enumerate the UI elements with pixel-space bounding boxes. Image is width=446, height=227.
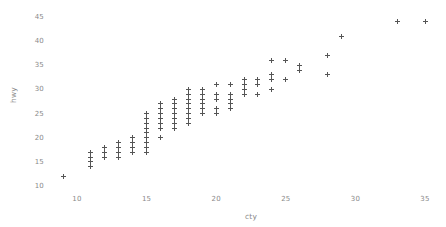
data-point [88,164,93,169]
data-point [200,106,205,111]
data-point [186,116,191,121]
y-axis-title: hwy [9,87,18,103]
data-point [130,140,135,145]
data-point [297,68,302,73]
data-point [186,111,191,116]
data-point [61,174,66,179]
data-point [214,82,219,87]
data-point [144,121,149,126]
data-point [339,34,344,39]
data-point [158,126,163,131]
data-point [269,58,274,63]
data-point [255,92,260,97]
data-point [172,97,177,102]
data-point [172,106,177,111]
data-point [395,19,400,24]
data-point [144,135,149,140]
data-point [158,135,163,140]
data-point [200,92,205,97]
data-point [228,92,233,97]
data-point [172,111,177,116]
data-point [228,82,233,87]
data-point [228,97,233,102]
data-point [186,101,191,106]
x-axis-title: cty [245,212,257,221]
data-point [144,130,149,135]
data-point [158,101,163,106]
data-point [116,155,121,160]
data-point [130,135,135,140]
data-point [116,140,121,145]
data-point [242,82,247,87]
plot-area: 1015202530354045 101520253035 cty hwy [0,0,446,227]
data-point [144,140,149,145]
data-point [186,87,191,92]
data-point [158,111,163,116]
data-point [186,106,191,111]
data-point [269,77,274,82]
data-point [325,53,330,58]
data-points-layer [0,0,446,227]
data-point [200,111,205,116]
data-point [200,97,205,102]
data-point [269,72,274,77]
data-point [214,92,219,97]
data-point [186,97,191,102]
data-point [423,19,428,24]
data-point [102,145,107,150]
data-point [214,106,219,111]
data-point [144,145,149,150]
data-point [242,77,247,82]
data-point [283,77,288,82]
data-point [325,72,330,77]
data-point [144,150,149,155]
data-point [186,121,191,126]
data-point [102,150,107,155]
data-point [186,92,191,97]
data-point [242,87,247,92]
data-point [144,126,149,131]
data-point [228,106,233,111]
data-point [269,87,274,92]
data-point [255,82,260,87]
data-point [172,101,177,106]
data-point [88,155,93,160]
data-point [214,97,219,102]
data-point [214,111,219,116]
scatter-chart-figure: 1015202530354045 101520253035 cty hwy [0,0,446,227]
data-point [102,155,107,160]
data-point [172,121,177,126]
data-point [200,87,205,92]
data-point [228,101,233,106]
data-point [88,150,93,155]
data-point [158,106,163,111]
data-point [88,159,93,164]
data-point [144,116,149,121]
data-point [158,116,163,121]
data-point [200,101,205,106]
data-point [130,150,135,155]
data-point [158,121,163,126]
data-point [283,58,288,63]
data-point [242,92,247,97]
data-point [255,77,260,82]
data-point [172,116,177,121]
data-point [116,145,121,150]
data-point [130,145,135,150]
data-point [172,126,177,131]
data-point [116,150,121,155]
data-point [144,111,149,116]
data-point [297,63,302,68]
